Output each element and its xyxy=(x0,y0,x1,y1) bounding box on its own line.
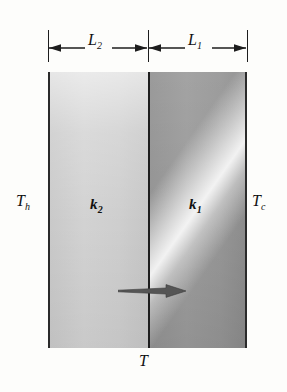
dimension-label-l2-subscript: 2 xyxy=(97,40,102,51)
dimension-arrows-svg xyxy=(0,0,287,72)
dimension-label-l1: L1 xyxy=(188,31,202,51)
conductivity-label-k2-subscript: 2 xyxy=(98,204,103,215)
temperature-label-hot-subscript: h xyxy=(25,201,30,212)
dimension-label-l1-subscript: 1 xyxy=(197,40,202,51)
temperature-label-cold: Tc xyxy=(252,192,265,212)
temperature-label-cold-subscript: c xyxy=(261,201,265,212)
temperature-label-hot-base: T xyxy=(16,192,25,209)
composite-wall: k2 k1 xyxy=(48,72,247,348)
conductivity-label-k2: k2 xyxy=(90,196,103,215)
temperature-label-interface: T xyxy=(139,352,148,370)
temperature-label-cold-base: T xyxy=(252,192,261,209)
dimension-annotations: L2 L1 xyxy=(0,0,287,72)
dimension-label-l2: L2 xyxy=(88,31,102,51)
heat-flow-arrow xyxy=(118,284,186,298)
dimension-label-l1-base: L xyxy=(188,31,197,48)
dimension-label-l2-base: L xyxy=(88,31,97,48)
conductivity-label-k1: k1 xyxy=(189,196,202,215)
conductivity-label-k1-subscript: 1 xyxy=(197,204,202,215)
slab-interface-line xyxy=(148,72,150,348)
temperature-label-hot: Th xyxy=(16,192,30,212)
heat-conduction-figure: L2 L1 k2 k1 Th Tc T xyxy=(0,0,287,392)
conductivity-label-k1-base: k xyxy=(189,196,197,212)
conductivity-label-k2-base: k xyxy=(90,196,98,212)
temperature-label-interface-base: T xyxy=(139,352,148,369)
